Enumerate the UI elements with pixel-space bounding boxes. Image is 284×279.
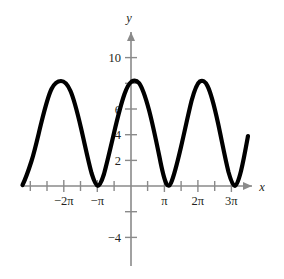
- x-tick-label-pi: π: [161, 194, 168, 208]
- x-tick-label-neg2pi: −2π: [54, 194, 74, 208]
- y-tick-label-10: 10: [109, 51, 122, 65]
- cosine-curve: [23, 81, 249, 186]
- y-axis-arrowhead: [127, 32, 135, 41]
- x-tick-labels: −2π −π π 2π 3π: [54, 194, 238, 208]
- x-tick-label-2pi: 2π: [192, 194, 205, 208]
- axes-group: [22, 32, 252, 266]
- x-axis-label: x: [258, 180, 265, 194]
- y-tick-label-2: 2: [115, 154, 121, 168]
- y-tick-label-neg4: −4: [108, 231, 122, 245]
- y-axis-label: y: [124, 11, 132, 25]
- x-tick-label-negpi: −π: [91, 194, 105, 208]
- x-axis-arrowhead: [243, 182, 252, 190]
- function-graph: −2π −π π 2π 3π 10 6 4 2 −4 x y: [0, 0, 284, 279]
- x-tick-label-3pi: 3π: [225, 194, 238, 208]
